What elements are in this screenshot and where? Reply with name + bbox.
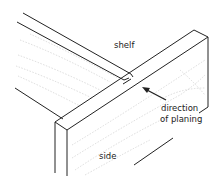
shelf-label: shelf (114, 40, 134, 50)
side-label: side (99, 151, 116, 161)
direction-arrow (142, 87, 166, 100)
woodworking-diagram: shelf direction of planing side (0, 0, 219, 184)
shelf-board (15, 13, 133, 119)
direction-label-line2: of planing (160, 114, 202, 124)
shelf-grain (16, 34, 118, 106)
direction-label-line1: direction (161, 103, 198, 113)
planing-direction-line (134, 138, 173, 165)
